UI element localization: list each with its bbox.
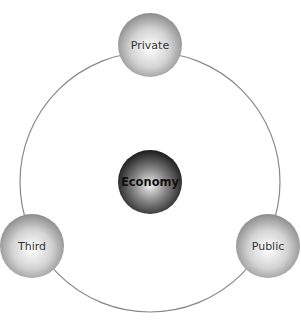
center-economy-label: Economy [121,175,179,189]
node-private-label: Private [131,39,169,52]
node-third-label: Third [18,240,46,253]
node-public-label: Public [252,240,285,253]
